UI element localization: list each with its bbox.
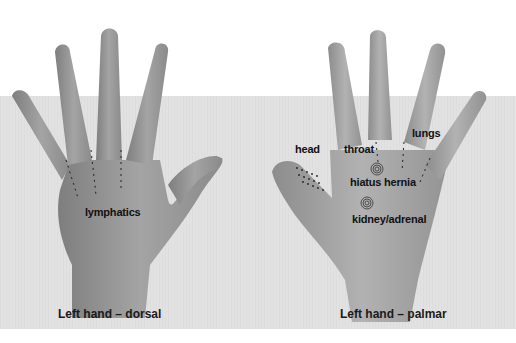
hands-illustration [0, 0, 516, 343]
label-head: head [295, 143, 320, 155]
label-lungs: lungs [412, 127, 440, 139]
label-hiatus-hernia: hiatus hernia [350, 176, 416, 188]
dorsal-hand [12, 29, 222, 319]
label-kidney-adrenal: kidney/adrenal [352, 213, 426, 225]
caption-dorsal: Left hand – dorsal [58, 307, 161, 321]
caption-palmar: Left hand – palmar [340, 307, 447, 321]
label-throat: throat [344, 143, 374, 155]
label-lymphatics: lymphatics [85, 206, 140, 218]
